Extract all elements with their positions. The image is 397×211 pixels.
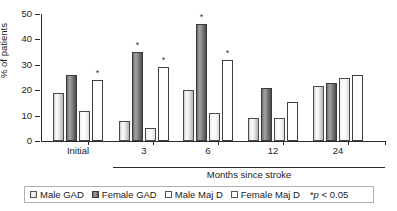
legend-label-female-gad: Female GAD — [102, 189, 157, 200]
legend-swatch-male-gad-icon — [30, 191, 37, 198]
legend-label-female-majd: Female Maj D — [241, 189, 300, 200]
legend-item-female-majd: Female Maj D — [231, 189, 300, 200]
x-axis-title-rule — [113, 167, 385, 168]
y-tick-label-40: 40 — [21, 35, 32, 45]
x-axis-line — [41, 141, 385, 142]
legend-label-male-gad: Male GAD — [40, 189, 84, 200]
x-axis-group-label-6: 6 — [171, 145, 245, 156]
bar-female-majd-6: * — [222, 60, 233, 141]
bar-female-majd-12 — [287, 102, 298, 141]
y-tick-30 — [35, 65, 40, 66]
bar-male-majd-3 — [145, 128, 156, 141]
legend-item-male-majd: Male Maj D — [165, 189, 223, 200]
x-axis-divider-3 — [283, 141, 284, 145]
bar-male-majd-initial — [79, 111, 90, 141]
significance-star-icon: * — [226, 49, 230, 58]
x-axis-title: Months since stroke — [113, 169, 385, 180]
bar-female-majd-24 — [352, 75, 363, 141]
bar-male-gad-12 — [248, 118, 259, 141]
significance-star-icon: * — [162, 56, 166, 65]
bar-female-gad-24 — [326, 83, 337, 141]
bar-male-gad-initial — [53, 93, 64, 141]
y-tick-50 — [35, 14, 40, 15]
y-tick-0 — [35, 141, 40, 142]
legend: Male GAD Female GAD Male Maj D Female Ma… — [24, 186, 374, 203]
bar-male-majd-24 — [339, 78, 350, 142]
significance-star-icon: * — [96, 69, 100, 78]
y-tick-40 — [35, 39, 40, 40]
legend-pvalue-rest: < 0.05 — [319, 189, 348, 200]
legend-item-male-gad: Male GAD — [30, 189, 84, 200]
bar-male-gad-6 — [183, 90, 194, 141]
bar-female-gad-6: * — [196, 24, 207, 141]
bar-female-gad-3: * — [132, 52, 143, 141]
legend-swatch-female-gad-icon — [92, 191, 99, 198]
legend-item-female-gad: Female GAD — [92, 189, 157, 200]
plot-area: 0 10 20 30 40 50 ***** — [41, 14, 385, 141]
legend-pvalue-note: *p < 0.05 — [310, 189, 348, 200]
bar-female-gad-initial — [66, 75, 77, 141]
bar-female-gad-12 — [261, 88, 272, 141]
bar-male-gad-3 — [119, 121, 130, 141]
x-axis-divider-2 — [218, 141, 219, 145]
significance-star-icon: * — [200, 13, 204, 22]
legend-swatch-male-majd-icon — [165, 191, 172, 198]
x-axis-group-label-3: 3 — [107, 145, 181, 156]
x-axis-group-label-12: 12 — [236, 145, 310, 156]
y-tick-label-10: 10 — [21, 111, 32, 121]
bar-female-majd-3: * — [158, 67, 169, 141]
y-tick-20 — [35, 90, 40, 91]
y-tick-label-30: 30 — [21, 60, 32, 70]
x-axis-divider-5 — [385, 141, 386, 145]
bar-female-majd-initial: * — [92, 80, 103, 141]
legend-swatch-female-majd-icon — [231, 191, 238, 198]
bar-chart: % of patients 0 10 20 30 40 50 ***** Ini… — [0, 0, 397, 211]
significance-star-icon: * — [136, 41, 140, 50]
bar-male-gad-24 — [313, 86, 324, 141]
y-tick-10 — [35, 116, 40, 117]
bar-male-majd-12 — [274, 118, 285, 141]
legend-label-male-majd: Male Maj D — [175, 189, 223, 200]
x-axis-group-label-24: 24 — [301, 145, 375, 156]
y-tick-label-50: 50 — [21, 9, 32, 19]
bar-male-majd-6 — [209, 113, 220, 141]
y-tick-label-20: 20 — [21, 85, 32, 95]
x-axis-group-label-initial: Initial — [41, 145, 115, 156]
y-tick-label-0: 0 — [27, 136, 32, 146]
x-axis-divider-4 — [348, 141, 349, 145]
x-axis-divider-0 — [88, 141, 89, 145]
y-axis-label: % of patients — [0, 23, 9, 78]
x-axis-divider-1 — [153, 141, 154, 145]
